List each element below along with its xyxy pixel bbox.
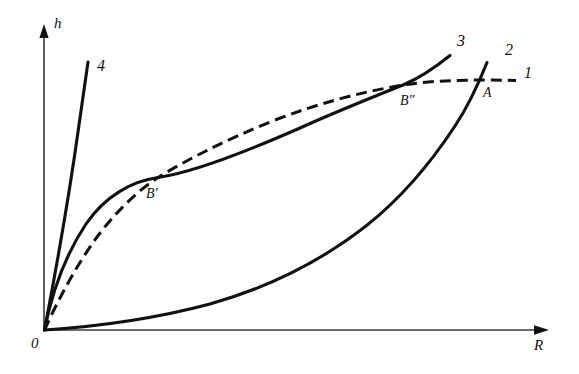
curve-2-label: 2 [505, 42, 513, 58]
origin-label: 0 [31, 336, 39, 351]
curve-3-label: 3 [457, 33, 465, 49]
h-axis [39, 24, 48, 330]
curve-1-path [45, 80, 517, 330]
r-axis [44, 325, 549, 335]
curve-3-path [45, 56, 451, 331]
arrow-up-icon [39, 24, 48, 38]
curve-4-path [45, 62, 89, 330]
arrow-right-icon [534, 325, 549, 335]
r-axis-label: R [534, 338, 543, 353]
plot-canvas [0, 0, 579, 374]
point-label-b-double-prime: B″ [400, 94, 414, 108]
curve-1-label: 1 [524, 65, 532, 81]
point-label-a: A [483, 86, 492, 100]
point-label-b-prime: B′ [146, 187, 158, 201]
curve-4-label: 4 [97, 58, 105, 74]
h-axis-label: h [54, 16, 62, 31]
graph-figure: h R 0 4 3 2 1 B′ B″ A [0, 0, 579, 374]
